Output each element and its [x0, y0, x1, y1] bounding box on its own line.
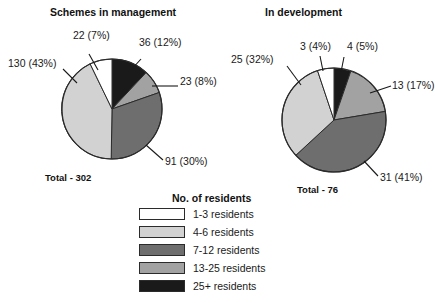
right-pie — [282, 68, 386, 172]
right-label-7-12: 31 (41%) — [380, 171, 423, 183]
left-label-1-3: 22 (7%) — [73, 29, 110, 41]
legend-item: 13-25 residents — [139, 259, 339, 277]
legend-item-label: 1-3 residents — [193, 208, 254, 220]
left-label-25plus: 36 (12%) — [139, 36, 182, 48]
legend-item-label: 13-25 residents — [193, 262, 265, 274]
legend-swatch — [139, 280, 185, 292]
pie-chart-figure: Schemes in management In development — [0, 0, 435, 303]
legend-item-label: 4-6 residents — [193, 226, 254, 238]
legend-swatch — [139, 226, 185, 238]
left-label-7-12: 91 (30%) — [165, 155, 208, 167]
right-label-1-3: 3 (4%) — [300, 40, 331, 52]
left-label-4-6: 130 (43%) — [8, 57, 56, 69]
legend: 1-3 residents4-6 residents7-12 residents… — [139, 205, 339, 295]
right-total-label: Total - 76 — [297, 184, 338, 195]
legend-swatch — [139, 244, 185, 256]
legend-item: 4-6 residents — [139, 223, 339, 241]
right-label-13-25: 13 (17%) — [392, 79, 435, 91]
legend-item: 7-12 residents — [139, 241, 339, 259]
left-total-label: Total - 302 — [45, 172, 91, 183]
left-label-13-25: 23 (8%) — [180, 75, 217, 87]
right-label-4-6: 25 (32%) — [231, 53, 274, 65]
right-label-25plus: 4 (5%) — [347, 40, 378, 52]
legend-item-label: 7-12 residents — [193, 244, 260, 256]
legend-item-label: 25+ residents — [193, 280, 256, 292]
legend-swatch — [139, 208, 185, 220]
legend-item: 1-3 residents — [139, 205, 339, 223]
legend-title: No. of residents — [172, 192, 251, 204]
legend-swatch — [139, 262, 185, 274]
left-pie — [61, 59, 162, 159]
legend-item: 25+ residents — [139, 277, 339, 295]
